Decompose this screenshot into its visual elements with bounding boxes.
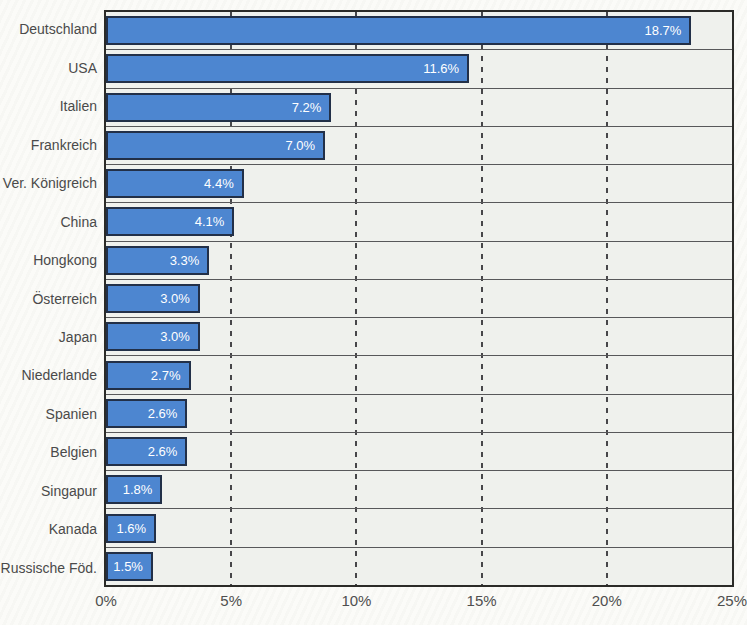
bar-value-label: 7.0% <box>285 138 315 153</box>
x-tick-label-25%: 25% <box>717 592 747 609</box>
bar-row: 2.7% <box>106 356 732 394</box>
bar-row: 4.4% <box>106 165 732 203</box>
x-tick-label-0%: 0% <box>95 592 117 609</box>
bar-row: 18.7% <box>106 12 732 50</box>
bar-value-label: 1.6% <box>116 521 146 536</box>
bar-value-label: 1.5% <box>113 559 143 574</box>
bar: 1.6% <box>106 514 156 543</box>
category-label: Hongkong <box>0 241 97 279</box>
bar: 1.5% <box>106 552 153 581</box>
bar-value-label: 4.1% <box>195 214 225 229</box>
bar: 2.7% <box>106 361 191 390</box>
bar: 1.8% <box>106 475 162 504</box>
bar-row: 1.5% <box>106 548 732 585</box>
bar-value-label: 2.7% <box>151 368 181 383</box>
bar-value-label: 11.6% <box>423 61 459 76</box>
x-tick-label-5%: 5% <box>220 592 242 609</box>
bar-rows: 18.7%11.6%7.2%7.0%4.4%4.1%3.3%3.0%3.0%2.… <box>106 12 732 585</box>
bar-value-label: 18.7% <box>644 23 681 38</box>
bar: 2.6% <box>106 437 187 466</box>
bar-value-label: 3.0% <box>160 291 190 306</box>
bar-value-label: 4.4% <box>204 176 234 191</box>
bar: 7.2% <box>106 93 331 122</box>
category-label: Spanien <box>0 395 97 433</box>
bar-row: 2.6% <box>106 433 732 471</box>
bar: 3.0% <box>106 322 200 351</box>
category-label: Kanada <box>0 510 97 548</box>
bar-row: 3.0% <box>106 318 732 356</box>
bar-row: 1.8% <box>106 471 732 509</box>
category-label: USA <box>0 48 97 86</box>
bar-row: 7.2% <box>106 89 732 127</box>
plot-area: 18.7%11.6%7.2%7.0%4.4%4.1%3.3%3.0%3.0%2.… <box>104 10 734 587</box>
category-label: Frankreich <box>0 125 97 163</box>
bar-row: 3.3% <box>106 242 732 280</box>
bar: 3.0% <box>106 284 200 313</box>
category-label: Ver. Königreich <box>0 164 97 202</box>
x-tick-label-10%: 10% <box>341 592 371 609</box>
bar-row: 1.6% <box>106 509 732 547</box>
x-tick-label-20%: 20% <box>592 592 622 609</box>
bar-row: 11.6% <box>106 50 732 88</box>
bar-row: 3.0% <box>106 280 732 318</box>
bar: 4.1% <box>106 207 234 236</box>
bar-value-label: 2.6% <box>148 444 178 459</box>
bar: 3.3% <box>106 246 209 275</box>
x-axis-tick-labels: 0%5%10%15%20%25% <box>106 592 732 616</box>
x-tick-label-15%: 15% <box>467 592 497 609</box>
bar: 18.7% <box>106 16 691 45</box>
category-axis-labels: DeutschlandUSAItalienFrankreichVer. Köni… <box>0 10 97 587</box>
bar: 7.0% <box>106 131 325 160</box>
bar: 11.6% <box>106 54 469 83</box>
bar-row: 2.6% <box>106 395 732 433</box>
category-label: Österreich <box>0 279 97 317</box>
bar-value-label: 7.2% <box>292 100 322 115</box>
category-label: Russische Föd. <box>0 549 97 587</box>
bar-row: 4.1% <box>106 203 732 241</box>
bar-value-label: 1.8% <box>123 482 153 497</box>
category-label: Japan <box>0 318 97 356</box>
bar-value-label: 3.3% <box>170 253 200 268</box>
category-label: Italien <box>0 87 97 125</box>
category-label: Deutschland <box>0 10 97 48</box>
category-label: Belgien <box>0 433 97 471</box>
bar: 4.4% <box>106 169 244 198</box>
bar-row: 7.0% <box>106 127 732 165</box>
category-label: Singapur <box>0 472 97 510</box>
category-label: Niederlande <box>0 356 97 394</box>
bar: 2.6% <box>106 399 187 428</box>
bar-value-label: 2.6% <box>148 406 178 421</box>
category-label: China <box>0 202 97 240</box>
bar-value-label: 3.0% <box>160 329 190 344</box>
